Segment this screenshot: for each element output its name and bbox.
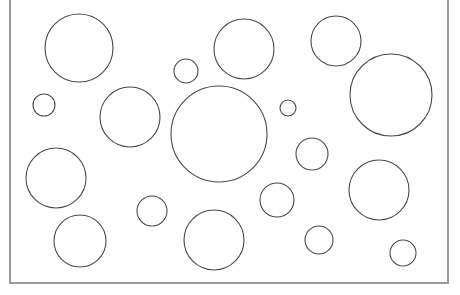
circle-10 <box>296 138 328 170</box>
circle-13 <box>260 183 294 217</box>
circle-17 <box>305 226 333 254</box>
diagram-canvas <box>0 0 460 295</box>
circle-4 <box>174 59 198 83</box>
circle-14 <box>137 196 167 226</box>
circle-2 <box>214 19 274 79</box>
circle-8 <box>171 86 267 182</box>
frame-line <box>10 0 448 283</box>
circle-3 <box>311 16 361 66</box>
circle-12 <box>349 160 409 220</box>
circle-16 <box>184 210 244 270</box>
circle-6 <box>33 94 55 116</box>
circle-5 <box>350 54 432 136</box>
circles-group <box>26 14 432 270</box>
circle-9 <box>280 100 296 116</box>
circles-diagram <box>0 0 460 295</box>
frame-border <box>10 0 448 283</box>
circle-11 <box>26 148 86 208</box>
circle-1 <box>45 14 113 82</box>
circle-7 <box>100 87 160 147</box>
circle-15 <box>54 215 106 267</box>
circle-18 <box>390 240 416 266</box>
